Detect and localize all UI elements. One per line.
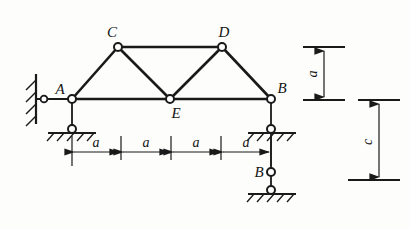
dimension-vertical-c: c <box>348 100 400 180</box>
joint-markers <box>68 43 275 103</box>
dimension-vertical-a: a <box>303 47 345 100</box>
pin-joint-B-lower <box>267 168 275 176</box>
member-D-B <box>222 47 271 99</box>
pin-joint-left-support <box>68 125 76 133</box>
dimension-extension-lines <box>72 136 271 166</box>
label-joint-B: B <box>277 80 286 96</box>
truss-members <box>72 47 271 99</box>
joint-B <box>267 95 275 103</box>
pin-joint-ground <box>267 186 275 194</box>
pin-joint-wall <box>41 96 48 103</box>
joint-A <box>68 95 76 103</box>
left-wall-support <box>26 74 72 126</box>
dimension-label-a-3: a <box>193 135 200 150</box>
joint-E <box>166 95 174 103</box>
truss-diagram: A C D E B B <box>0 0 410 229</box>
ground-hatch-left-icon <box>47 133 94 141</box>
dimension-label-a-4: a <box>243 135 250 150</box>
member-C-E <box>118 47 170 99</box>
member-E-D <box>170 47 222 99</box>
dimension-label-a-2: a <box>143 135 150 150</box>
label-joint-A: A <box>54 81 65 97</box>
dimension-label-c-vertical: c <box>360 138 375 145</box>
label-joint-C: C <box>107 24 118 40</box>
wall-hatch-icon <box>26 80 36 126</box>
figure-canvas: A C D E B B <box>0 0 410 229</box>
joint-D <box>218 43 226 51</box>
dimension-label-a-1: a <box>93 135 100 150</box>
label-joint-E: E <box>170 105 180 121</box>
label-joint-B-lower: B <box>254 164 263 180</box>
label-joint-D: D <box>218 24 230 40</box>
ground-hatch-bottom-icon <box>247 194 294 202</box>
dimension-chain-horizontal: a a a a <box>72 135 271 166</box>
pin-joint-right-support <box>267 125 275 133</box>
member-A-C <box>72 47 118 99</box>
joint-C <box>114 43 122 51</box>
dimension-label-a-vertical: a <box>305 71 320 78</box>
